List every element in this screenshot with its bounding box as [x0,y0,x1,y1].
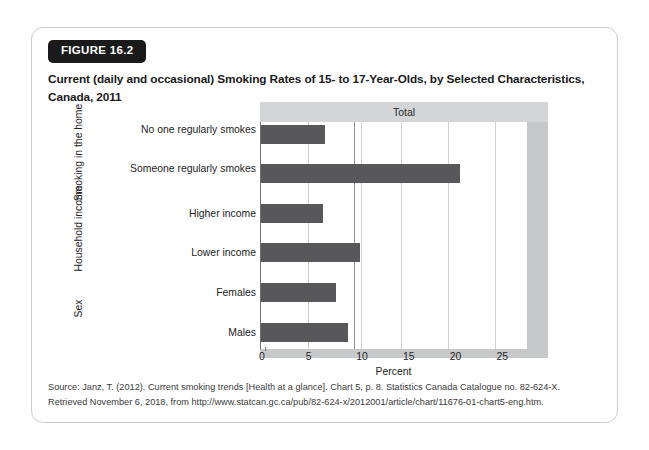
category-label-someone-regularly-smokes: Someone regularly smokes [106,162,256,175]
bar-males [261,323,348,342]
xtick-label-20: 20 [450,351,462,362]
figure-number-badge: FIGURE 16.2 [48,40,146,63]
value-axis: 0 5 10 15 20 25 [260,351,548,367]
group-label-household-income: Household income [72,181,85,277]
bar-females [261,283,336,302]
gridline-5 [308,122,309,349]
gridline-25 [495,122,496,349]
group-label-sex: Sex [72,288,85,330]
category-label-higher-income: Higher income [106,207,256,220]
xtick-mark-0 [265,347,266,351]
bar-chart: Total Smoking in the home Household inco… [48,102,604,370]
gridline-10b [361,122,362,349]
bar-higher-income [261,204,323,223]
x-axis-title: Percent [260,366,527,377]
bar-no-one-regularly-smokes [261,125,325,144]
xtick-label-10: 10 [356,351,368,362]
xtick-label-25: 25 [496,351,508,362]
figure-card: FIGURE 16.2 Current (daily and occasiona… [31,27,618,423]
xtick-label-15: 15 [403,351,415,362]
bar-lower-income [261,243,360,262]
xtick-label-5: 5 [306,351,312,362]
category-label-males: Males [106,326,256,339]
figure-page: FIGURE 16.2 Current (daily and occasiona… [0,0,649,450]
xtick-label-0: 0 [259,351,265,362]
gridline-15 [401,122,402,349]
group-axis: Smoking in the home Household income Sex [48,122,108,349]
category-label-females: Females [106,286,256,299]
chart-header-total: Total [260,102,548,122]
category-label-lower-income: Lower income [106,246,256,259]
bar-someone-regularly-smokes [261,164,460,183]
category-label-no-one-regularly-smokes: No one regularly smokes [106,123,256,136]
gridline-10 [354,122,355,349]
gridline-20 [448,122,449,349]
figure-source-note: Source: Janz, T. (2012). Current smoking… [48,380,600,410]
category-axis: No one regularly smokes Someone regularl… [100,122,256,349]
plot-area [260,122,527,349]
